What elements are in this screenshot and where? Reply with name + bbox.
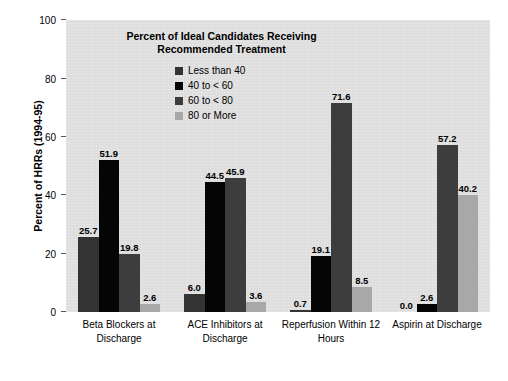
bar-value-label: 51.9 — [100, 149, 119, 159]
bar[interactable] — [246, 302, 267, 313]
bar-value-label: 8.5 — [355, 276, 368, 286]
y-axis-tick-label: 60 — [45, 132, 61, 143]
bar-slot: 0.0 — [396, 20, 417, 312]
bar[interactable] — [352, 287, 373, 312]
bar-chart: Percent of HRRs (1994-95) 020406080100 P… — [0, 0, 508, 381]
x-axis-label-line-1: Discharge — [166, 332, 284, 346]
bar-slot: 2.6 — [140, 20, 161, 312]
bar-value-label: 71.6 — [332, 92, 351, 102]
bar[interactable] — [417, 304, 438, 312]
bar-slot: 51.9 — [99, 20, 120, 312]
bar-group: 0.02.657.240.2 — [396, 20, 478, 312]
y-axis-tick-label: 40 — [45, 190, 61, 201]
bar-group: 6.044.545.93.6 — [184, 20, 266, 312]
bar[interactable] — [458, 195, 479, 312]
y-axis-tick: 80 — [45, 69, 66, 87]
bar-value-label: 2.6 — [420, 293, 433, 303]
bar-value-label: 40.2 — [459, 184, 478, 194]
bar-value-label: 3.6 — [249, 291, 262, 301]
bar-group: 25.751.919.82.6 — [78, 20, 160, 312]
bar[interactable] — [184, 294, 205, 312]
y-axis-tick: 100 — [39, 11, 66, 29]
bar-slot: 2.6 — [417, 20, 438, 312]
y-axis-tick: 40 — [45, 186, 66, 204]
bar-group: 0.719.171.68.5 — [290, 20, 372, 312]
bar-value-label: 19.8 — [120, 243, 139, 253]
bar[interactable] — [311, 256, 332, 312]
y-axis-tick: 60 — [45, 128, 66, 146]
bar-slot: 6.0 — [184, 20, 205, 312]
x-axis-label-line-0: Reperfusion Within 12 — [272, 318, 390, 332]
y-axis-title: Percent of HRRs (1994-95) — [32, 56, 44, 276]
bar-slot: 19.1 — [311, 20, 332, 312]
bar[interactable] — [205, 182, 226, 312]
bar-slot: 8.5 — [352, 20, 373, 312]
x-axis-label: Reperfusion Within 12Hours — [272, 318, 390, 345]
bar-value-label: 25.7 — [79, 226, 98, 236]
bars-layer: 25.751.919.82.66.044.545.93.60.719.171.6… — [66, 20, 490, 312]
bar[interactable] — [225, 178, 246, 312]
bar-value-label: 0.7 — [294, 299, 307, 309]
x-axis-label: Beta Blockers atDischarge — [60, 318, 178, 345]
bar[interactable] — [140, 304, 161, 312]
y-axis-tick: 20 — [45, 245, 66, 263]
bar-slot: 3.6 — [246, 20, 267, 312]
bar-slot: 0.7 — [290, 20, 311, 312]
bar-value-label: 6.0 — [188, 283, 201, 293]
x-axis-labels: Beta Blockers atDischargeACE Inhibitors … — [66, 318, 490, 364]
plot-area: 020406080100 Percent of Ideal Candidates… — [66, 20, 490, 312]
x-axis-label: ACE Inhibitors atDischarge — [166, 318, 284, 345]
x-axis-label-line-0: Beta Blockers at — [60, 318, 178, 332]
bar-slot: 25.7 — [78, 20, 99, 312]
x-axis-label-line-1: Discharge — [60, 332, 178, 346]
bar[interactable] — [119, 254, 140, 312]
bar-slot: 45.9 — [225, 20, 246, 312]
y-axis-tick-label: 100 — [39, 15, 61, 26]
bar[interactable] — [437, 145, 458, 312]
bar-value-label: 57.2 — [438, 134, 457, 144]
y-axis-tick-label: 20 — [45, 249, 61, 260]
x-axis-label-line-1: Hours — [272, 332, 390, 346]
y-axis-tick-label: 80 — [45, 74, 61, 85]
bar-slot: 57.2 — [437, 20, 458, 312]
bar-slot: 44.5 — [205, 20, 226, 312]
bar-value-label: 19.1 — [312, 245, 331, 255]
x-axis-label-line-0: Aspirin at Discharge — [378, 318, 496, 332]
bar-slot: 40.2 — [458, 20, 479, 312]
bar-value-label: 2.6 — [143, 293, 156, 303]
bar-slot: 71.6 — [331, 20, 352, 312]
bar-value-label: 45.9 — [226, 167, 245, 177]
bar[interactable] — [331, 103, 352, 312]
bar[interactable] — [78, 237, 99, 312]
bar-value-label: 0.0 — [400, 301, 413, 311]
bar[interactable] — [99, 160, 120, 312]
bar-slot: 19.8 — [119, 20, 140, 312]
bar[interactable] — [290, 310, 311, 312]
x-axis-label-line-0: ACE Inhibitors at — [166, 318, 284, 332]
bar-value-label: 44.5 — [206, 171, 225, 181]
y-axis-tick-label: 0 — [50, 307, 61, 318]
x-axis-label: Aspirin at Discharge — [378, 318, 496, 332]
